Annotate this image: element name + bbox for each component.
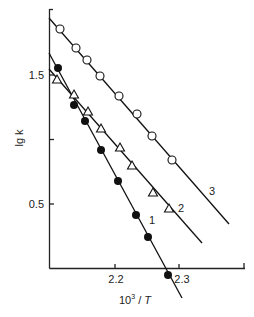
data-point: [81, 117, 89, 125]
y-tick-label-0.5: 0.5: [29, 198, 44, 210]
data-point: [114, 177, 122, 185]
data-point: [53, 75, 62, 83]
data-point: [168, 156, 176, 164]
data-point: [133, 110, 141, 118]
x-tick-label-2.2: 2.2: [108, 273, 123, 285]
data-point: [128, 161, 137, 169]
fit-line-series-1: [49, 53, 182, 298]
data-point: [70, 101, 78, 109]
series-label-3: 3: [209, 185, 215, 197]
data-point: [149, 188, 158, 196]
x-tick-label-2.3: 2.3: [174, 273, 189, 285]
y-axis-label: lg k: [13, 129, 25, 147]
data-point: [148, 132, 156, 140]
data-point: [83, 56, 91, 64]
data-point: [164, 271, 172, 279]
data-point: [84, 107, 93, 115]
x-axis-label: 103 / T: [119, 293, 152, 306]
series-label-1: 1: [149, 214, 155, 226]
data-point: [56, 25, 64, 33]
data-point: [144, 233, 152, 241]
data-point: [97, 146, 105, 154]
data-point: [54, 64, 62, 72]
series-2-points: [53, 75, 174, 212]
data-point: [96, 72, 104, 80]
data-point: [165, 204, 174, 212]
arrhenius-plot: 1.5 0.5 2.2 2.3 lg k 103 / T: [0, 0, 254, 317]
data-point: [115, 92, 123, 100]
series-label-2: 2: [178, 202, 184, 214]
y-tick-label-1.5: 1.5: [29, 69, 44, 81]
data-point: [72, 44, 80, 52]
data-point: [132, 211, 140, 219]
